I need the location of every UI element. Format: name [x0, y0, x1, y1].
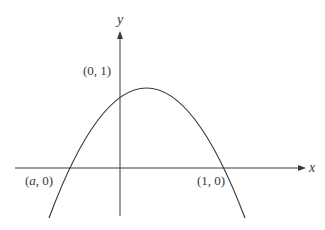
- left-root-label: (a, 0): [25, 173, 53, 188]
- right-root-label: (1, 0): [197, 173, 225, 188]
- graph-svg: x y (0, 1) (a, 0) (1, 0): [0, 0, 325, 230]
- x-axis-label: x: [308, 160, 316, 175]
- y-axis-arrowhead-icon: [117, 31, 123, 39]
- y-axis-label: y: [115, 12, 124, 27]
- parabola-curve: [49, 88, 245, 218]
- x-axis-arrowhead-icon: [298, 165, 306, 171]
- y-intercept-label: (0, 1): [83, 63, 111, 78]
- diagram-canvas: x y (0, 1) (a, 0) (1, 0): [0, 0, 325, 230]
